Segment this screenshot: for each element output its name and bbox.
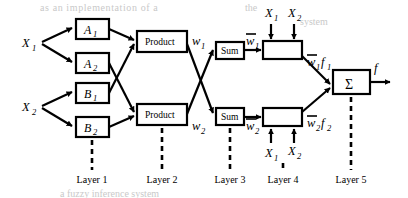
layer4-bottom-input-x2-label: X 2: [287, 144, 302, 161]
layer2-output-w2-letter: w: [192, 119, 201, 133]
edge-x1-to-a2: [42, 44, 72, 62]
layer2-output-w1-label: w 1: [192, 34, 205, 51]
layer4-bottom-input-x1-label: X 1: [264, 146, 278, 163]
layer-3-caption: Layer 3: [215, 174, 246, 185]
layer4-bottom-input-x2-subscript: 2: [297, 151, 302, 161]
input-x2-subscript: 2: [32, 107, 37, 117]
layer1-node-b1[interactable]: B 1: [76, 83, 109, 103]
layer4-bottom-input-x1-subscript: 1: [274, 153, 278, 163]
layer3-output-wbar1-subscript: 1: [255, 41, 259, 51]
layer4-top-input-x1-subscript: 1: [274, 13, 278, 23]
layer4-node-f1-box[interactable]: [263, 41, 302, 59]
layer5-node-sigma[interactable]: Σ: [333, 70, 370, 94]
input-x1-subscript: 1: [32, 43, 36, 53]
layer4-output-wbar1f1-w: w: [307, 55, 316, 69]
input-x2-letter: X: [21, 100, 31, 114]
layer4-bottom-input-x2-letter: X: [287, 144, 297, 158]
layer1-node-a2[interactable]: A 2: [76, 53, 109, 73]
layer3-output-wbar2-label: w 2: [246, 119, 260, 136]
layer1-node-a1[interactable]: A 1: [76, 19, 109, 39]
layer4-output-wbar2f2-w: w: [307, 116, 316, 130]
layer3-node-sum-top-label: Sum: [221, 46, 239, 56]
layer2-output-w2-subscript: 2: [201, 126, 206, 136]
layer4-output-wbar1f1-label: w 1 f 1: [307, 55, 331, 72]
layer-5-caption: Layer 5: [336, 174, 367, 185]
layer2-output-w1-subscript: 1: [201, 41, 205, 51]
layer1-node-a1-letter: A: [83, 23, 92, 37]
layer1-node-a2-letter: A: [83, 57, 92, 71]
layer-1-caption: Layer 1: [77, 174, 108, 185]
layer1-node-b1-letter: B: [84, 87, 92, 101]
layer3-node-sum-bottom[interactable]: Sum: [216, 108, 244, 125]
anfis-diagram: X 1 X 2 A 1 A 2 B 1 B: [0, 0, 408, 198]
layer1-node-b2-letter: B: [84, 121, 92, 135]
layer2-output-w1-letter: w: [192, 34, 201, 48]
input-x1-letter: X: [21, 36, 31, 50]
layer3-output-wbar1-letter: w: [246, 34, 255, 48]
layer-4-caption: Layer 4: [268, 174, 299, 185]
edge-x2-to-b1: [42, 92, 72, 106]
layer4-node-f2[interactable]: [263, 108, 302, 126]
layer3-node-sum-bottom-label: Sum: [221, 112, 239, 122]
layer4-node-f2-box[interactable]: [263, 108, 302, 126]
layer4-top-input-x1-label: X 1: [264, 6, 278, 23]
layer4-output-wbar2f2-label: w 2 f 2: [307, 116, 332, 133]
edge-node-f2-to-sigma: [302, 88, 330, 112]
layer4-output-wbar1f1-f: f: [321, 55, 326, 69]
layer3-output-wbar2-letter: w: [246, 119, 255, 133]
layer2-node-product-bottom-label: Product: [145, 110, 175, 120]
layer5-output-f-label: f: [374, 61, 379, 75]
layer1-node-a1-subscript: 1: [93, 29, 97, 39]
layer4-output-wbar2f2-f: f: [321, 116, 326, 130]
layer3-output-wbar2-subscript: 2: [255, 126, 260, 136]
layer5-node-sigma-symbol: Σ: [345, 77, 353, 92]
input-x2-label: X 2: [21, 100, 37, 117]
layer1-node-b1-subscript: 1: [93, 93, 97, 103]
layer4-output-wbar1f1-w-subscript: 1: [316, 62, 320, 72]
layer4-bottom-input-x1-letter: X: [264, 146, 274, 160]
layer4-top-input-x2-label: X 2: [287, 6, 302, 23]
layer2-output-w2-label: w 2: [192, 119, 206, 136]
layer2-node-product-top[interactable]: Product: [137, 31, 187, 52]
layer1-node-b2[interactable]: B 2: [76, 117, 109, 137]
edge-a1-to-product-top: [109, 29, 134, 40]
layer4-top-input-x2-letter: X: [287, 6, 297, 20]
layer3-node-sum-top[interactable]: Sum: [216, 42, 244, 59]
layer2-node-product-bottom[interactable]: Product: [137, 104, 187, 125]
edge-x1-to-a1: [42, 28, 72, 42]
layer3-output-wbar1-label: w 1: [246, 34, 259, 51]
layer-2-caption: Layer 2: [147, 174, 178, 185]
layer4-top-input-x1-letter: X: [264, 6, 274, 20]
edge-b2-to-product-bottom: [109, 116, 134, 127]
layer4-top-input-x2-subscript: 2: [297, 13, 302, 23]
layer4-output-wbar1f1-f-subscript: 1: [327, 62, 331, 72]
layer4-node-f1[interactable]: [263, 41, 302, 59]
edge-x2-to-b2: [42, 108, 72, 126]
input-x1-label: X 1: [21, 36, 36, 53]
layer4-output-wbar2f2-f-subscript: 2: [327, 123, 332, 133]
figure-canvas: as an implementation of a the system a f…: [0, 0, 408, 198]
layer2-node-product-top-label: Product: [145, 37, 175, 47]
